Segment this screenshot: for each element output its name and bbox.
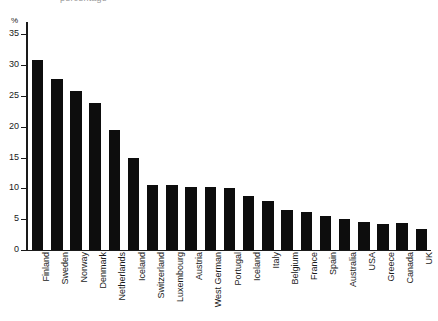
bar (147, 185, 159, 250)
bar (70, 91, 82, 250)
bar (243, 196, 255, 250)
bar (358, 222, 370, 250)
y-tick-label: 30 (9, 59, 19, 70)
bar (51, 79, 63, 250)
y-tick-label: 35 (9, 28, 19, 39)
bar (339, 219, 351, 250)
bar (416, 229, 428, 250)
plot-area (28, 22, 431, 250)
bar (377, 224, 389, 250)
bar (281, 210, 293, 250)
x-axis-label: Iceland (138, 252, 147, 281)
x-axis-label: Finland (42, 252, 51, 282)
x-axis-category-labels: FinlandSwedenNorwayDenmarkNetherlandsIce… (28, 252, 431, 321)
x-axis-label: Australia (349, 252, 358, 287)
bar (205, 187, 217, 250)
y-tick-15: 15 (0, 158, 26, 159)
y-tick-label: 5 (14, 213, 19, 224)
x-axis-label: Spain (329, 252, 338, 275)
y-tick-5: 5 (0, 219, 26, 220)
x-axis-label: Iceland (253, 252, 262, 281)
y-tick-0: 0 (0, 250, 26, 251)
y-tick-35: 35 (0, 34, 26, 35)
y-tick-30: 30 (0, 65, 26, 66)
x-axis-label: Portugal (234, 252, 243, 286)
x-axis-label: Belgium (291, 252, 300, 285)
bar (166, 185, 178, 250)
x-axis-label: Switzerland (157, 252, 166, 299)
y-tick-25: 25 (0, 96, 26, 97)
y-tick-label: 10 (9, 182, 19, 193)
bar-chart: percentage % 05101520253035 FinlandSwede… (0, 0, 438, 321)
bar (262, 201, 274, 250)
bar (109, 130, 121, 250)
y-axis-unit-label: % (11, 16, 18, 25)
x-axis-label: UK (425, 252, 434, 265)
x-axis-label: Norway (80, 252, 89, 283)
bar (185, 187, 197, 250)
y-tick-label: 20 (9, 121, 19, 132)
clipped-title-text: percentage (60, 0, 240, 3)
bar (128, 158, 140, 250)
bar (396, 223, 408, 250)
y-tick-label: 25 (9, 90, 19, 101)
bar (89, 103, 101, 250)
bar (32, 60, 44, 250)
x-axis-label: France (310, 252, 319, 280)
x-axis-label: Austria (195, 252, 204, 280)
x-axis-label: Sweden (61, 252, 70, 285)
y-tick-20: 20 (0, 127, 26, 128)
x-axis-label: West German (214, 252, 223, 307)
x-axis-label: USA (368, 252, 377, 271)
x-axis-label: Canada (406, 252, 415, 284)
x-axis-label: Greece (387, 252, 396, 282)
bar (320, 216, 332, 250)
x-axis-label: Netherlands (118, 252, 127, 301)
x-axis-label: Italy (272, 252, 281, 269)
y-tick-10: 10 (0, 188, 26, 189)
x-axis-label: Denmark (99, 252, 108, 289)
y-tick-label: 0 (14, 244, 19, 255)
y-tick-label: 15 (9, 152, 19, 163)
x-axis-label: Luxembourg (176, 252, 185, 302)
bar (224, 188, 236, 250)
bar (301, 212, 313, 250)
